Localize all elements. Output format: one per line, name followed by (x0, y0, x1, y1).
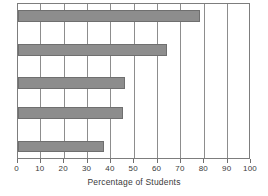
tick-label-40: 40 (105, 164, 114, 173)
tick-mark-50 (133, 159, 134, 163)
tick-label-60: 60 (152, 164, 161, 173)
bar-1 (18, 10, 200, 22)
bar-4 (18, 107, 123, 119)
tick-mark-100 (250, 159, 251, 163)
tick-mark-40 (110, 159, 111, 163)
bar-2 (18, 44, 167, 56)
gridline-70 (180, 4, 181, 158)
tick-mark-20 (63, 159, 64, 163)
tick-mark-90 (227, 159, 228, 163)
tick-mark-70 (180, 159, 181, 163)
tick-mark-0 (17, 159, 18, 163)
tick-mark-60 (157, 159, 158, 163)
x-axis-label: Percentage of Students (0, 177, 268, 187)
tick-mark-30 (87, 159, 88, 163)
tick-label-70: 70 (175, 164, 184, 173)
tick-label-80: 80 (199, 164, 208, 173)
bar-5 (18, 141, 104, 152)
gridline-90 (227, 4, 228, 158)
tick-label-50: 50 (129, 164, 138, 173)
plot-area (17, 3, 251, 159)
tick-label-0: 0 (14, 164, 19, 173)
gridline-80 (204, 4, 205, 158)
bar-chart: 0102030405060708090100 Percentage of Stu… (0, 0, 268, 196)
tick-mark-80 (203, 159, 204, 163)
tick-label-10: 10 (35, 164, 44, 173)
tick-mark-10 (40, 159, 41, 163)
tick-label-100: 100 (243, 164, 257, 173)
bar-3 (18, 77, 125, 89)
gridline-60 (157, 4, 158, 158)
tick-label-20: 20 (59, 164, 68, 173)
tick-label-90: 90 (222, 164, 231, 173)
tick-label-30: 30 (82, 164, 91, 173)
gridline-50 (134, 4, 135, 158)
